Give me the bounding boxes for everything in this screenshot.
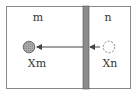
compartment-m-label: m bbox=[33, 12, 43, 23]
membrane-barrier bbox=[83, 6, 89, 89]
species-xm-label: Xm bbox=[28, 58, 46, 69]
particle-xn-dashed-icon bbox=[103, 41, 115, 53]
species-xn-label: Xn bbox=[103, 58, 118, 69]
membrane-transport-diagram: m n Xm Xn bbox=[0, 0, 137, 97]
diagram-canvas bbox=[0, 0, 137, 97]
particle-xm-icon bbox=[23, 41, 35, 53]
compartment-n-label: n bbox=[104, 12, 111, 23]
